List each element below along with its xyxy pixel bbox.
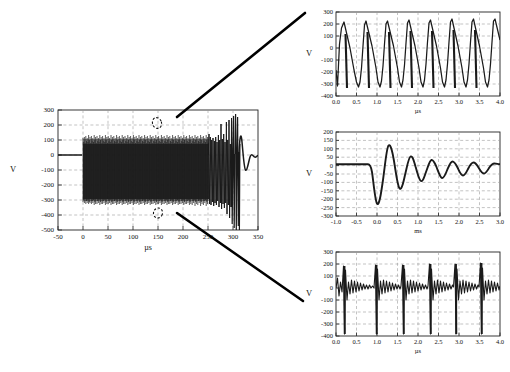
main-xtick-100: 100 xyxy=(121,233,145,241)
inset-top-ytick-200: 200 xyxy=(300,20,333,27)
inset-middle-ytick-neg100: -100 xyxy=(300,178,333,185)
main-ytick-100: 100 xyxy=(18,136,54,144)
inset-bottom-x-axis-label: µs xyxy=(408,347,428,354)
inset-bottom-ytick-neg100: -100 xyxy=(300,296,333,303)
inset-middle-ytick-neg200: -200 xyxy=(300,195,333,202)
main-plot-svg xyxy=(18,104,268,254)
main-xtick-200: 200 xyxy=(171,233,195,241)
inset-top-xtick-30: 3.0 xyxy=(449,98,469,105)
inset-top-panel: 300 200 100 0 -100 -200 -300 -400 0.0 0.… xyxy=(300,8,506,118)
main-xtick-350: 350 xyxy=(246,233,270,241)
inset-bottom-y-axis-label: V xyxy=(306,288,312,298)
inset-middle-ytick-neg50: -50 xyxy=(300,170,333,177)
inset-middle-xtick-15: 1.5 xyxy=(428,218,450,225)
inset-top-xtick-15: 1.5 xyxy=(388,98,408,105)
main-x-axis-label: µs xyxy=(133,243,163,252)
inset-top-xtick-25: 2.5 xyxy=(429,98,449,105)
inset-top-xtick-20: 2.0 xyxy=(408,98,428,105)
oscilloscope-figure: 300 200 100 0 -100 -200 -300 -400 -500 -… xyxy=(0,0,510,372)
inset-middle-ytick-200: 200 xyxy=(300,128,333,135)
inset-top-x-axis-label: µs xyxy=(408,107,428,114)
inset-bottom-ytick-neg300: -300 xyxy=(300,320,333,327)
main-xtick-250: 250 xyxy=(196,233,220,241)
inset-bottom-xtick-25: 2.5 xyxy=(429,338,449,345)
inset-bottom-xtick-35: 3.5 xyxy=(470,338,490,345)
inset-middle-xtick-neg10: -1.0 xyxy=(325,218,347,225)
main-xtick-300: 300 xyxy=(221,233,245,241)
inset-bottom-xtick-10: 1.0 xyxy=(367,338,387,345)
inset-middle-xtick-10: 1.0 xyxy=(407,218,429,225)
inset-bottom-xtick-20: 2.0 xyxy=(408,338,428,345)
inset-middle-xtick-05: 0.5 xyxy=(387,218,409,225)
inset-bottom-xtick-05: 0.5 xyxy=(347,338,367,345)
inset-bottom-xtick-0: 0.0 xyxy=(326,338,346,345)
inset-bottom-xtick-30: 3.0 xyxy=(449,338,469,345)
inset-bottom-ytick-neg200: -200 xyxy=(300,308,333,315)
leader-to-top-inset xyxy=(177,13,305,117)
inset-middle-ytick-neg250: -250 xyxy=(300,204,333,211)
inset-top-ytick-100: 100 xyxy=(300,32,333,39)
inset-top-y-axis-label: V xyxy=(306,48,312,58)
inset-bottom-ytick-300: 300 xyxy=(300,248,333,255)
inset-middle-ytick-150: 150 xyxy=(300,136,333,143)
main-ytick-0: 0 xyxy=(18,151,54,159)
main-ytick-neg200: -200 xyxy=(18,181,54,189)
inset-bottom-xtick-15: 1.5 xyxy=(388,338,408,345)
main-xtick-150: 150 xyxy=(146,233,170,241)
inset-bottom-ytick-200: 200 xyxy=(300,260,333,267)
inset-middle-y-axis-label: V xyxy=(306,168,312,178)
inset-top-ytick-300: 300 xyxy=(300,8,333,15)
inset-middle-ytick-0: 0 xyxy=(300,162,333,169)
inset-middle-xtick-25: 2.5 xyxy=(469,218,491,225)
inset-middle-panel: 200 150 100 50 0 -50 -100 -150 -200 -250… xyxy=(300,128,506,240)
inset-bottom-ytick-100: 100 xyxy=(300,272,333,279)
main-ytick-neg100: -100 xyxy=(18,166,54,174)
inset-middle-xtick-30: 3.0 xyxy=(489,218,510,225)
inset-top-xtick-35: 3.5 xyxy=(470,98,490,105)
main-ytick-200: 200 xyxy=(18,121,54,129)
inset-bottom-xtick-40: 4.0 xyxy=(490,338,510,345)
inset-middle-xtick-neg05: -0.5 xyxy=(346,218,368,225)
inset-top-ytick-neg200: -200 xyxy=(300,68,333,75)
main-xtick-50: 50 xyxy=(96,233,120,241)
inset-middle-ytick-neg150: -150 xyxy=(300,187,333,194)
main-ytick-neg300: -300 xyxy=(18,196,54,204)
inset-top-xtick-40: 4.0 xyxy=(490,98,510,105)
inset-bottom-panel: 300 200 100 0 -100 -200 -300 -400 0.0 0.… xyxy=(300,248,506,366)
inset-middle-ytick-100: 100 xyxy=(300,145,333,152)
main-plot-panel: 300 200 100 0 -100 -200 -300 -400 -500 -… xyxy=(18,104,268,254)
inset-top-xtick-05: 0.5 xyxy=(347,98,367,105)
inset-middle-xtick-20: 2.0 xyxy=(448,218,470,225)
inset-top-xtick-10: 1.0 xyxy=(367,98,387,105)
inset-top-ytick-neg300: -300 xyxy=(300,80,333,87)
main-y-axis-label: V xyxy=(10,164,16,174)
inset-middle-xtick-0: 0.0 xyxy=(366,218,388,225)
inset-top-ytick-0: 0 xyxy=(300,44,333,51)
inset-middle-x-axis-label: ms xyxy=(408,227,428,234)
inset-middle-ytick-50: 50 xyxy=(300,153,333,160)
inset-bottom-ytick-0: 0 xyxy=(300,284,333,291)
main-ytick-neg400: -400 xyxy=(18,211,54,219)
inset-top-xtick-0: 0.0 xyxy=(326,98,346,105)
main-xtick-0: 0 xyxy=(71,233,95,241)
main-xtick-neg50: -50 xyxy=(46,233,70,241)
main-ytick-300: 300 xyxy=(18,106,54,114)
inset-top-ytick-neg100: -100 xyxy=(300,56,333,63)
